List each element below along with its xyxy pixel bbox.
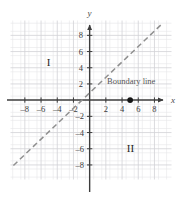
boundary-line-label: Boundary line xyxy=(107,76,156,86)
y-tick-label: 2 xyxy=(79,79,83,89)
coordinate-plane-figure: –8 –6 –4 –2 2 4 6 8 8 6 4 2 –2 –4 –6 –8 … xyxy=(0,0,184,198)
y-tick-label: –6 xyxy=(75,144,85,154)
y-tick-label: –4 xyxy=(75,128,85,138)
x-tick-label: 6 xyxy=(136,104,140,114)
y-tick-label: –8 xyxy=(75,160,85,170)
y-tick-label: 6 xyxy=(79,47,83,57)
quadrant-two-label: II xyxy=(127,142,135,154)
x-tick-label: –8 xyxy=(20,104,30,114)
x-tick-label: 8 xyxy=(152,104,156,114)
y-tick-label: –2 xyxy=(75,111,85,121)
y-tick-label: 8 xyxy=(79,30,83,40)
coordinate-plane-svg: –8 –6 –4 –2 2 4 6 8 8 6 4 2 –2 –4 –6 –8 … xyxy=(0,0,184,198)
x-tick-label: 2 xyxy=(104,104,108,114)
quadrant-one-label: I xyxy=(47,56,51,68)
x-tick-label: 4 xyxy=(120,104,125,114)
x-tick-label: –4 xyxy=(52,104,62,114)
y-axis-name-label: y xyxy=(87,8,92,18)
x-axis-name-label: x xyxy=(170,95,175,105)
x-tick-label: –6 xyxy=(36,104,46,114)
plotted-point xyxy=(127,97,133,103)
